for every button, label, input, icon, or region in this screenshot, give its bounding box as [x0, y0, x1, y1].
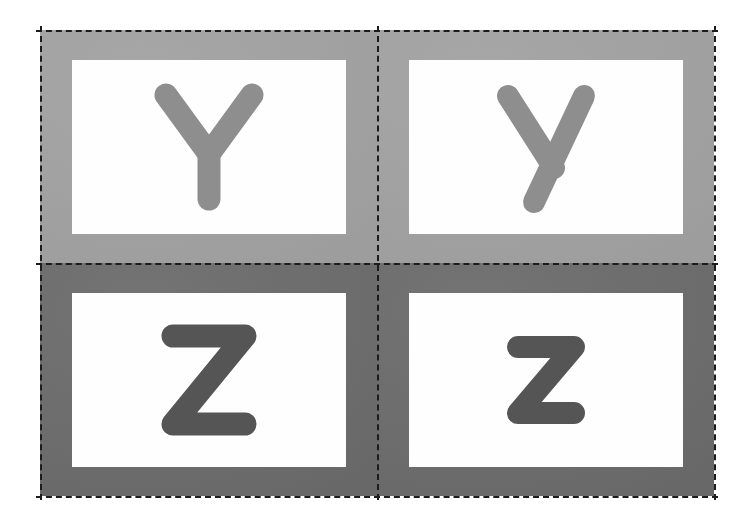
letter-glyph-z-uppercase [155, 319, 263, 441]
letter-glyph-z-lowercase [503, 332, 589, 428]
flashcard-sheet [40, 30, 714, 496]
flashcard-cell-y-upper[interactable] [40, 30, 377, 263]
cut-line-bottom [36, 496, 718, 498]
flashcard-card-z-upper[interactable] [72, 293, 346, 467]
flashcard-card-z-lower[interactable] [409, 293, 683, 467]
flashcard-cell-z-upper[interactable] [40, 263, 377, 496]
flashcard-cell-z-lower[interactable] [377, 263, 714, 496]
letter-glyph-y-uppercase [149, 78, 269, 216]
flashcard-card-y-lower[interactable] [409, 60, 683, 234]
flashcard-cell-y-lower[interactable] [377, 30, 714, 263]
flashcard-card-y-upper[interactable] [72, 60, 346, 234]
cut-line-right [714, 26, 716, 500]
letter-glyph-y-lowercase [492, 76, 600, 218]
